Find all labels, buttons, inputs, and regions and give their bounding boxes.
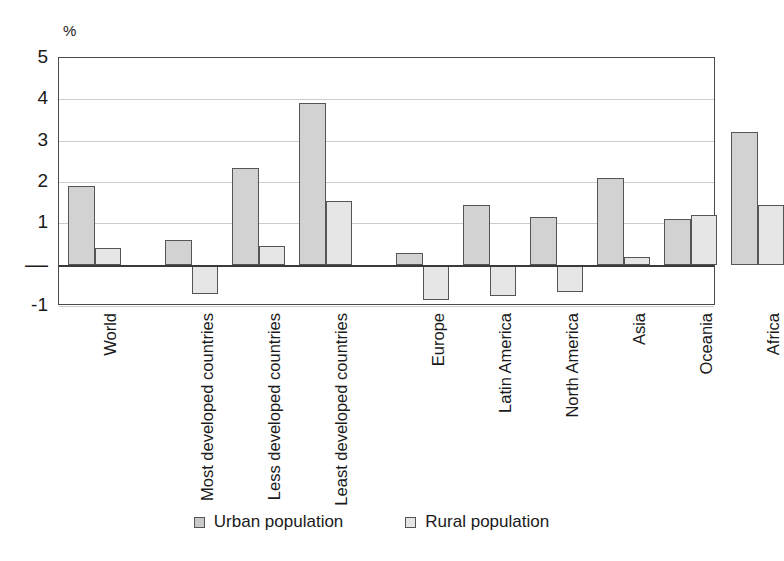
x-label-least-developed-countries: Least developed countries [332, 313, 351, 506]
bar-urban-2 [232, 168, 259, 265]
legend-item-rural[interactable]: Rural population [405, 512, 549, 532]
y-axis-unit-label: % [63, 22, 77, 39]
bar-urban-6 [530, 217, 557, 265]
bar-rural-5 [490, 265, 517, 296]
y-tick-2: 2 [8, 170, 48, 192]
x-label-most-developed-countries: Most developed countries [198, 313, 217, 501]
legend-label: Urban population [214, 512, 343, 532]
bar-rural-4 [423, 265, 450, 300]
bar-rural-7 [624, 257, 651, 264]
x-label-latin-america: Latin America [496, 313, 515, 413]
gridline [59, 141, 714, 142]
bar-urban-0 [68, 186, 95, 265]
legend-swatch-rural-icon [405, 517, 416, 528]
bar-rural-9 [758, 205, 784, 265]
x-label-oceania: Oceania [697, 313, 716, 374]
x-label-africa: Africa [764, 313, 783, 355]
y-axis-tick-labels: 54321—-1 [0, 57, 48, 305]
x-label-north-america: North America [563, 313, 582, 418]
x-label-asia: Asia [630, 313, 649, 345]
chart-legend: Urban populationRural population [0, 512, 743, 532]
bar-rural-3 [326, 201, 353, 265]
y-tick-1: 1 [8, 211, 48, 233]
bar-urban-3 [299, 103, 326, 264]
bar-rural-0 [95, 248, 122, 265]
bar-rural-2 [259, 246, 286, 265]
legend-swatch-urban-icon [194, 517, 205, 528]
bar-urban-7 [597, 178, 624, 265]
x-label-world: World [101, 313, 120, 356]
legend-item-urban[interactable]: Urban population [194, 512, 343, 532]
bar-urban-8 [664, 219, 691, 264]
y-tick-3: 3 [8, 129, 48, 151]
x-axis-category-labels: WorldMost developed countriesLess develo… [58, 305, 715, 505]
bar-urban-5 [463, 205, 490, 265]
y-tick-neg1: -1 [8, 294, 48, 316]
y-tick-zero: — [8, 252, 48, 275]
bar-urban-1 [165, 240, 192, 265]
x-label-less-developed-countries: Less developed countries [265, 313, 284, 500]
zero-baseline [59, 265, 714, 267]
bar-rural-8 [691, 215, 718, 265]
y-tick-5: 5 [8, 46, 48, 68]
plot-area [58, 57, 715, 305]
legend-label: Rural population [425, 512, 549, 532]
gridline [59, 99, 714, 100]
bar-rural-6 [557, 265, 584, 292]
y-tick-4: 4 [8, 87, 48, 109]
bar-urban-4 [396, 253, 423, 265]
x-label-europe: Europe [429, 313, 448, 366]
bar-rural-1 [192, 265, 219, 294]
bar-urban-9 [731, 132, 758, 264]
